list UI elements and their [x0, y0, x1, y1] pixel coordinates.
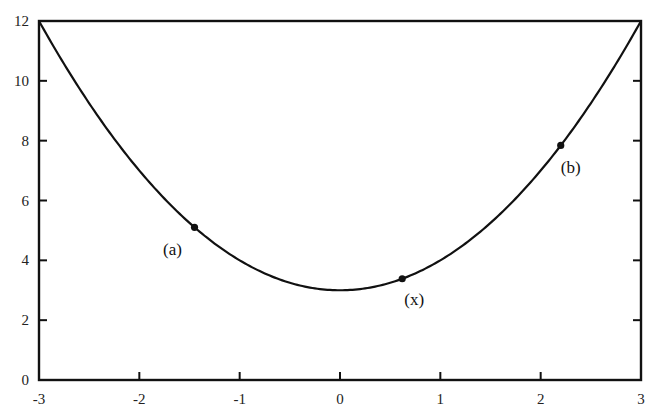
x-tick-label: 3 — [637, 391, 645, 407]
curve-line — [39, 21, 641, 290]
point-label: (a) — [163, 240, 182, 259]
axis-ticks — [39, 81, 641, 380]
y-tick-label: 10 — [14, 73, 29, 89]
x-tick-label: 2 — [537, 391, 545, 407]
y-tick-label: 4 — [22, 252, 30, 268]
y-tick-label: 6 — [22, 193, 30, 209]
x-tick-label: -2 — [133, 391, 146, 407]
x-tick-label: -1 — [233, 391, 246, 407]
point-marker — [191, 224, 198, 231]
point-marker — [399, 275, 406, 282]
y-tick-label: 12 — [14, 13, 29, 29]
x-tick-label: 1 — [437, 391, 445, 407]
y-tick-label: 2 — [22, 312, 30, 328]
x-tick-label: 0 — [336, 391, 344, 407]
x-tick-label: -3 — [33, 391, 46, 407]
plot-frame — [39, 21, 641, 380]
y-tick-label: 8 — [22, 133, 30, 149]
annotated-points: (a)(x)(b) — [163, 142, 581, 309]
point-marker — [557, 142, 564, 149]
point-label: (b) — [561, 158, 581, 177]
point-label: (x) — [404, 290, 424, 309]
axis-tick-labels: -3-2-10123024681012 — [14, 13, 645, 407]
y-tick-label: 0 — [22, 372, 30, 388]
chart: -3-2-10123024681012 (a)(x)(b) — [0, 0, 659, 418]
